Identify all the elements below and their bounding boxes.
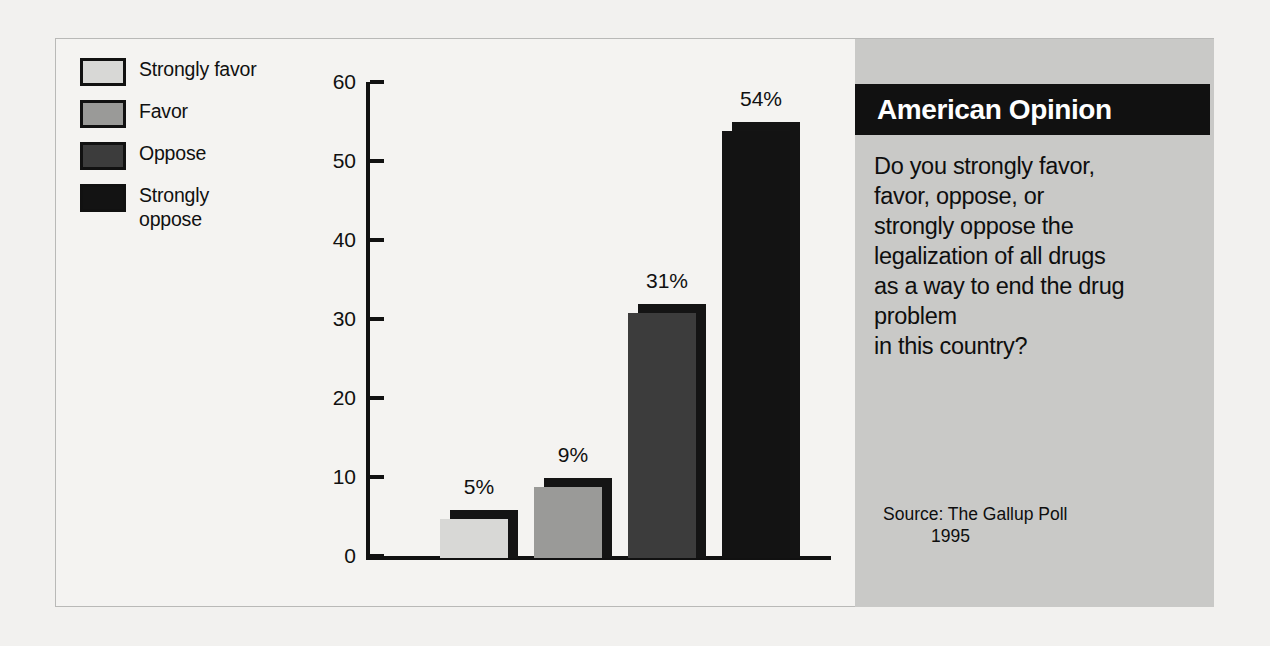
- side-panel-header: American Opinion: [855, 84, 1210, 135]
- bar[interactable]: [534, 487, 602, 558]
- y-axis-tick-label-wrap: 20: [306, 387, 356, 408]
- bar[interactable]: [628, 313, 696, 558]
- y-axis-tick-label: 50: [310, 150, 356, 171]
- chart-panel: Strongly favor Favor Oppose Strongly opp…: [56, 39, 855, 606]
- y-axis-tick: [370, 554, 384, 558]
- y-axis-tick: [370, 317, 384, 321]
- y-axis-tick: [370, 80, 384, 84]
- y-axis-tick: [370, 475, 384, 479]
- y-axis-tick-label-wrap: 30: [306, 308, 356, 329]
- source-attribution: Source: The Gallup Poll 1995: [883, 503, 1203, 547]
- y-axis-tick-label: 40: [310, 229, 356, 250]
- bar-group: [534, 478, 612, 558]
- y-axis-tick-label: 10: [310, 466, 356, 487]
- y-axis-tick-label-wrap: 60: [306, 71, 356, 92]
- plot-area: 0102030405060 5%9%31%54%: [56, 39, 855, 606]
- side-panel: American Opinion Do you strongly favor, …: [855, 39, 1214, 607]
- y-axis-tick-label: 0: [310, 545, 356, 566]
- y-axis-tick-label: 60: [310, 71, 356, 92]
- y-axis-tick-label-wrap: 50: [306, 150, 356, 171]
- y-axis-tick: [370, 159, 384, 163]
- y-axis-tick-label: 20: [310, 387, 356, 408]
- y-axis-tick-label: 30: [310, 308, 356, 329]
- bar[interactable]: [722, 131, 790, 558]
- poll-question-text: Do you strongly favor, favor, oppose, or…: [874, 151, 1204, 361]
- bar-value-label: 54%: [701, 88, 821, 109]
- y-axis-tick-label-wrap: 40: [306, 229, 356, 250]
- bar-group: [722, 122, 800, 558]
- y-axis-line: [366, 82, 370, 560]
- bar-group: [628, 304, 706, 558]
- source-year: 1995: [931, 525, 1203, 547]
- bar-group: [440, 510, 518, 559]
- source-label: Source: The Gallup Poll: [883, 504, 1068, 524]
- y-axis-tick-label-wrap: 10: [306, 466, 356, 487]
- bar[interactable]: [440, 519, 508, 559]
- side-panel-title: American Opinion: [877, 94, 1112, 126]
- y-axis-tick: [370, 238, 384, 242]
- bar-value-label: 5%: [419, 476, 539, 497]
- y-axis-tick: [370, 396, 384, 400]
- bar-value-label: 31%: [607, 270, 727, 291]
- y-axis-tick-label-wrap: 0: [306, 545, 356, 566]
- bar-value-label: 9%: [513, 444, 633, 465]
